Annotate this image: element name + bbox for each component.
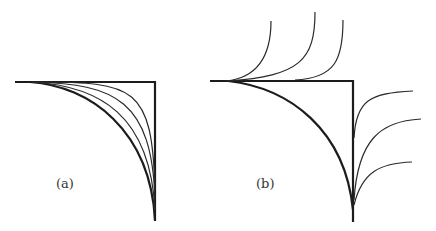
panel-a-outer-arc <box>30 82 155 220</box>
panel-b-arc <box>228 81 353 210</box>
panel-a-corner-lines <box>15 82 155 221</box>
figure-canvas <box>0 0 436 231</box>
panel-b <box>210 12 421 222</box>
panel-b-label: (b) <box>256 176 274 191</box>
panel-a-curve-3 <box>34 82 155 200</box>
panel-b-upper-branch-3 <box>295 20 343 80</box>
panel-b-upper-branch-1 <box>226 21 271 81</box>
panel-b-right-branch-1 <box>354 91 413 138</box>
panel-b-corner-lines <box>210 81 353 222</box>
panel-a-label: (a) <box>56 176 74 191</box>
panel-a-curve-4 <box>36 82 155 190</box>
panel-b-right-branch-2 <box>354 119 421 200</box>
panel-a <box>15 82 155 221</box>
panel-b-right-branch-3 <box>354 162 412 205</box>
